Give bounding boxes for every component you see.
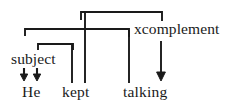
subject-arrow-right	[33, 68, 40, 81]
subject-arrow-left-head	[20, 74, 27, 81]
word-label-talking: talking	[123, 84, 167, 100]
dependency-diagram: subject xcomplement He kept talking	[0, 0, 236, 108]
xcomplement-arrow-head	[157, 72, 166, 81]
connector-edges-group	[72, 13, 129, 83]
middle-bracket-edge	[25, 29, 129, 37]
relation-label-xcomplement: xcomplement	[134, 21, 219, 37]
word-label-kept: kept	[62, 84, 90, 100]
relation-label-subject: subject	[11, 51, 56, 67]
word-label-he: He	[22, 84, 40, 100]
xcomplement-arrow	[157, 41, 166, 81]
subject-arrow-right-head	[33, 74, 40, 81]
subject-arrow-left	[20, 68, 27, 81]
